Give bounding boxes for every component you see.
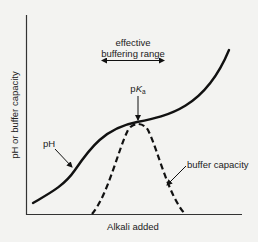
ph-label: pH xyxy=(43,139,55,149)
pka-subscript: a xyxy=(142,88,146,95)
range-label-line2: buffering range xyxy=(101,49,165,59)
diagram-canvas: effective buffering range pKa pH buffer … xyxy=(0,0,258,242)
ph-label-arrow xyxy=(55,149,72,167)
buffer-label-arrow xyxy=(167,166,186,185)
buffer-capacity-curve xyxy=(92,124,185,214)
range-label-line1: effective xyxy=(115,38,150,48)
y-axis-label: pH or buffer capacity xyxy=(9,71,20,158)
pka-label: pKa xyxy=(130,84,145,96)
buffer-capacity-label: buffer capacity xyxy=(187,160,249,170)
x-axis-label: Alkali added xyxy=(107,222,159,232)
